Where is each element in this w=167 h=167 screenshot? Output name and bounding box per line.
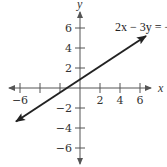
equation-line <box>16 36 146 122</box>
x-tick-label-2: 2 <box>97 94 104 107</box>
y-tick-label-neg2: −2 <box>56 102 72 115</box>
x-tick-label-4: 4 <box>117 94 124 107</box>
x-tick-label-6: 6 <box>137 94 144 107</box>
equation-label: 2x − 3y = −3 <box>115 20 167 34</box>
y-tick-label-6: 6 <box>65 22 72 35</box>
x-tick-label-neg6: −6 <box>12 94 28 107</box>
y-tick-label-neg4: −4 <box>56 122 72 135</box>
y-tick-label-neg6: −6 <box>56 142 72 155</box>
y-axis-label: y <box>76 0 83 11</box>
y-tick-label-2: 2 <box>65 62 72 75</box>
coordinate-plane: −6 2 4 6 6 4 2 −2 −4 −6 x y 2x − 3y = −3 <box>0 0 167 167</box>
y-tick-label-4: 4 <box>65 42 72 55</box>
x-axis-label: x <box>157 81 164 95</box>
